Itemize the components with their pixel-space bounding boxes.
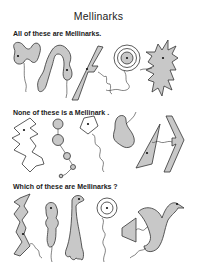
- candidate-2-snowman: [46, 203, 59, 262]
- mellinark-2-worm: [38, 45, 72, 98]
- candidate-1-lightning: [14, 194, 42, 258]
- mellinark-1-bowtie: [14, 42, 41, 92]
- non-mellinark-2-beads: [53, 119, 76, 178]
- candidate-6-bird: [130, 203, 184, 258]
- non-mellinark-3-pentagon: [80, 116, 104, 172]
- mellinark-4-spiral: [106, 45, 140, 91]
- non-mellinark-5-triangle: [136, 124, 160, 168]
- figure-canvas: [0, 0, 197, 265]
- mellinark-3-slash: [72, 46, 112, 100]
- non-mellinark-4-blob: [113, 112, 136, 148]
- candidate-3-neck: [65, 196, 84, 261]
- non-mellinark-6-chevron: [152, 116, 184, 172]
- non-mellinark-1-jagged: [12, 118, 44, 172]
- mellinark-5-spiky: [140, 40, 178, 96]
- candidate-4-spiral: [97, 198, 117, 262]
